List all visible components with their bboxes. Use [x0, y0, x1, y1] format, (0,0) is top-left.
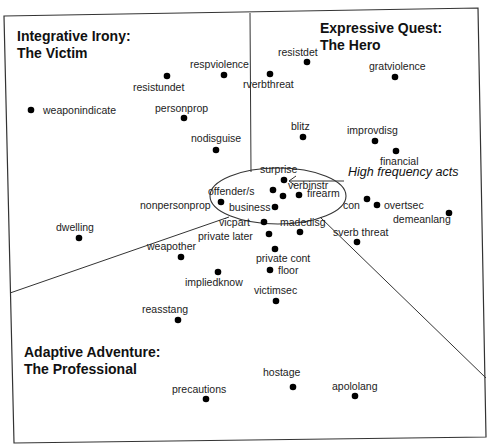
- point-label: nodisguise: [191, 132, 241, 144]
- point-label: impliedknow: [185, 276, 243, 288]
- region-expressive: Expressive Quest: The Hero: [320, 20, 442, 53]
- point-dot: [164, 73, 171, 80]
- point-dot: [213, 147, 220, 154]
- point-dot: [215, 269, 222, 276]
- point-label: personprop: [155, 102, 208, 114]
- high-frequency-annotation: High frequency acts: [348, 165, 458, 179]
- point-dot: [372, 138, 379, 145]
- point-label: weaponindicate: [42, 104, 116, 116]
- point-label: gratviolence: [369, 60, 426, 72]
- point-label: rverbthreat: [243, 78, 294, 90]
- point-dot: [304, 59, 311, 66]
- point-dot: [290, 384, 297, 391]
- point-dot: [374, 202, 381, 209]
- point-dot: [266, 231, 273, 238]
- point-label: firearm: [307, 187, 340, 199]
- point-dot: [267, 267, 274, 274]
- point-dot: [364, 196, 371, 203]
- point-label: apololang: [332, 380, 378, 392]
- point-label: vicpart: [219, 216, 250, 228]
- point-label: blitz: [291, 120, 310, 132]
- point-label: private cont: [256, 252, 310, 264]
- point-dot: [221, 72, 228, 79]
- point-dot: [273, 298, 280, 305]
- point-label: improvdisg: [347, 124, 398, 136]
- region-title-line1: Adaptive Adventure:: [24, 344, 160, 360]
- divider-vertical: [250, 13, 251, 172]
- point-dot: [352, 393, 359, 400]
- point-label: financial: [380, 155, 419, 167]
- point-label: dwelling: [56, 221, 94, 233]
- region-integrative: Integrative Irony: The Victim: [17, 28, 131, 61]
- point-label: demeanlang: [393, 213, 451, 225]
- point-dot: [281, 177, 288, 184]
- point-dot: [393, 148, 400, 155]
- point-dot: [181, 115, 188, 122]
- point-dot: [354, 239, 361, 246]
- point-dot: [267, 71, 274, 78]
- point-dot: [218, 199, 225, 206]
- point-label: resistundet: [133, 81, 184, 93]
- point-label: precautions: [172, 383, 226, 395]
- point-dot: [297, 229, 304, 236]
- point-dot: [270, 187, 277, 194]
- point-label: victimsec: [254, 284, 297, 296]
- point-label: madedisg: [280, 216, 326, 228]
- point-label: sverb threat: [333, 226, 389, 238]
- region-title-line1: Integrative Irony:: [17, 28, 131, 44]
- point-label: weapother: [146, 240, 197, 252]
- point-label: floor: [278, 264, 299, 276]
- point-label: surprise: [260, 163, 298, 175]
- point-dot: [296, 192, 303, 199]
- point-dot: [76, 235, 83, 242]
- point-label: nonpersonprop: [140, 199, 211, 211]
- region-title-line2: The Hero: [320, 37, 381, 53]
- point-label: private later: [198, 230, 253, 242]
- region-adaptive: Adaptive Adventure: The Professional: [24, 344, 160, 377]
- point-label: resistdet: [278, 46, 318, 58]
- typology-diagram: Integrative Irony: The Victim Expressive…: [0, 0, 489, 445]
- point-dot: [280, 193, 287, 200]
- region-title-line2: The Victim: [17, 45, 88, 61]
- point-label: reasstang: [142, 303, 188, 315]
- point-dot: [178, 254, 185, 261]
- point-dot: [272, 204, 279, 211]
- point-dot: [392, 74, 399, 81]
- point-dot: [261, 219, 268, 226]
- point-label: overtsec: [384, 199, 424, 211]
- point-label: respviolence: [190, 58, 249, 70]
- point-dot: [203, 396, 210, 403]
- point-dot: [300, 134, 307, 141]
- point-label: con: [343, 199, 360, 211]
- region-title-line1: Expressive Quest:: [320, 20, 442, 36]
- point-dot: [175, 317, 182, 324]
- point-dot: [28, 107, 35, 114]
- point-label: offender/s: [208, 185, 255, 197]
- point-label: hostage: [263, 366, 301, 378]
- region-title-line2: The Professional: [24, 361, 137, 377]
- point-label: business: [229, 201, 270, 213]
- divider-right: [320, 217, 486, 378]
